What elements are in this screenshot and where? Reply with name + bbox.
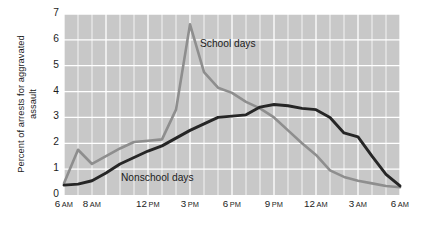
x-axis-tick-label: 6AM bbox=[391, 198, 409, 209]
x-axis-tick-labels: 6AM8AM12PM3PM6PM9PM12AM3AM6AM bbox=[0, 0, 425, 225]
series-annotation-nonschool-days: Nonschool days bbox=[121, 172, 194, 183]
x-axis-tick-label: 12PM bbox=[136, 198, 160, 209]
series-annotation-school-days: School days bbox=[200, 38, 256, 49]
x-axis-tick-label: 3PM bbox=[181, 198, 199, 209]
x-axis-tick-label: 8AM bbox=[83, 198, 101, 209]
x-axis-tick-label: 6PM bbox=[223, 198, 241, 209]
x-axis-tick-label: 6AM bbox=[55, 198, 73, 209]
x-axis-tick-label: 3AM bbox=[349, 198, 367, 209]
x-axis-tick-label: 12AM bbox=[304, 198, 328, 209]
x-axis-tick-label: 9PM bbox=[265, 198, 283, 209]
